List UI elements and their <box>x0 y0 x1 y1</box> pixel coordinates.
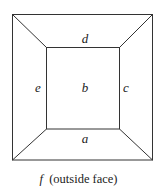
face-label-a: a <box>82 132 89 145</box>
face-label-d: d <box>82 32 89 45</box>
edge-top-left <box>13 15 47 48</box>
caption: f (outside face) <box>0 172 157 187</box>
caption-text: (outside face) <box>49 172 117 186</box>
face-label-f: f <box>39 172 42 186</box>
face-label-e: e <box>35 81 41 94</box>
graph-drawing <box>0 0 157 194</box>
edge-bottom-right <box>120 129 153 160</box>
face-label-c: c <box>123 81 129 94</box>
edge-bottom-left <box>13 129 47 160</box>
face-label-b: b <box>82 81 89 94</box>
edge-top-right <box>120 15 153 48</box>
